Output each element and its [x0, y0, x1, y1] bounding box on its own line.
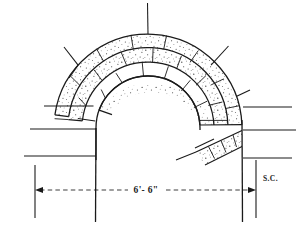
section-note-label: S.C.	[263, 174, 278, 183]
joint-middle-4	[153, 48, 154, 62]
crown-spoke	[148, 3, 149, 34]
left-side-wall	[96, 128, 97, 222]
span-dimension-label: 6'- 6"	[134, 185, 159, 195]
drawing-canvas: 6'- 6" S.C.	[0, 0, 298, 228]
right-side-wall	[242, 120, 243, 222]
arch-section-drawing: 6'- 6" S.C.	[0, 0, 298, 228]
